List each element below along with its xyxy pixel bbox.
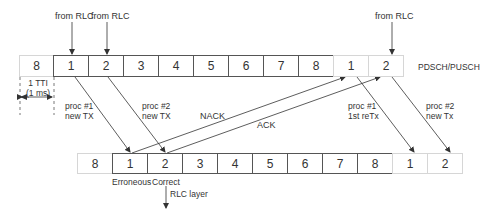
top-cell: 8 xyxy=(19,55,54,77)
bottom-cell: 2 xyxy=(147,153,183,174)
correct-label: Correct xyxy=(152,177,180,187)
proc2-newtx-line1: proc #2 xyxy=(426,101,454,111)
bottom-cell: 8 xyxy=(357,153,393,174)
bottom-cell: 5 xyxy=(252,153,288,174)
top-subframe-row: 8 1 2 3 4 5 6 7 8 1 2 xyxy=(20,55,404,77)
bottom-cell: 3 xyxy=(182,153,218,174)
bottom-cell: 2 xyxy=(427,153,463,174)
proc2-new-tx-line2: new TX xyxy=(142,111,171,121)
from-rlc-label-3: from RLC xyxy=(375,11,414,21)
top-cell: 8 xyxy=(298,55,334,77)
proc1-new-tx-label: proc #1 new TX xyxy=(65,101,94,121)
top-cell: 6 xyxy=(228,55,264,77)
rlc-layer-label: RLC layer xyxy=(170,189,208,199)
tti-label: 1 TTI (1 ms) xyxy=(26,78,50,98)
proc2-newtx-label: proc #2 new Tx xyxy=(426,101,454,121)
tti-label-line2: (1 ms) xyxy=(26,88,50,98)
proc1-new-tx-line2: new TX xyxy=(65,111,94,121)
nack-label: NACK xyxy=(200,111,225,121)
top-cell: 4 xyxy=(158,55,194,77)
proc2-newtx-line2: new Tx xyxy=(426,111,454,121)
top-cell: 1 xyxy=(53,55,89,77)
from-rlc-label-1: from RLC xyxy=(55,11,94,21)
bottom-cell: 1 xyxy=(112,153,148,174)
top-cell: 5 xyxy=(193,55,229,77)
bottom-cell: 1 xyxy=(392,153,428,174)
tti-label-line1: 1 TTI xyxy=(26,78,50,88)
top-cell: 2 xyxy=(88,55,124,77)
bottom-subframe-row: 8 1 2 3 4 5 6 7 8 1 2 xyxy=(78,153,463,174)
proc1-retx-line1: proc #1 xyxy=(348,101,379,111)
bottom-cell: 8 xyxy=(77,153,113,174)
bottom-cell: 4 xyxy=(217,153,253,174)
erroneous-label: Erroneous xyxy=(112,177,151,187)
top-cell: 7 xyxy=(263,55,299,77)
bottom-cell: 6 xyxy=(287,153,323,174)
top-cell: 2 xyxy=(368,55,404,77)
proc1-retx-line2: 1st reTx xyxy=(348,111,379,121)
ack-label: ACK xyxy=(257,120,276,130)
bottom-cell: 7 xyxy=(322,153,358,174)
channel-label: PDSCH/PUSCH xyxy=(418,62,480,72)
proc1-retx-label: proc #1 1st reTx xyxy=(348,101,379,121)
top-cell: 3 xyxy=(123,55,159,77)
proc2-new-tx-line1: proc #2 xyxy=(142,101,171,111)
proc2-new-tx-label: proc #2 new TX xyxy=(142,101,171,121)
proc1-new-tx-line1: proc #1 xyxy=(65,101,94,111)
top-cell: 1 xyxy=(333,55,369,77)
from-rlc-label-2: from RLC xyxy=(91,11,130,21)
